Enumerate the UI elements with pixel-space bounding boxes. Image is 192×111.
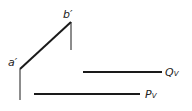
label-qv-main: Q [165, 66, 174, 79]
projection-diagram: a′ b′ QV PV [0, 0, 192, 111]
label-a-prime: a′ [8, 56, 18, 69]
label-pv: PV [145, 88, 158, 101]
label-b-prime: b′ [63, 8, 73, 21]
label-qv: QV [165, 66, 180, 79]
label-pv-sub: V [152, 92, 158, 100]
label-qv-sub: V [174, 70, 180, 78]
line-a-b [20, 22, 71, 69]
